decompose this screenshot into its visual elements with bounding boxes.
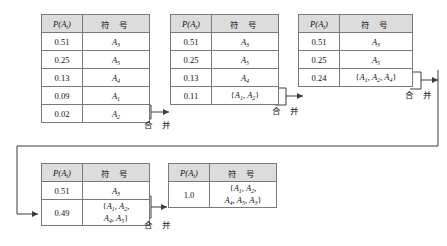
table-3: P(Ai) 符 号 0.51 A3 0.25 A5 0.24 {A1, A2, … — [298, 14, 413, 87]
merge-label-3: 合 并 — [405, 88, 435, 100]
col-header-probability: P(Ai) — [299, 15, 340, 33]
cell-probability: 0.25 — [299, 51, 340, 69]
table-row: 0.24 {A1, A2, A4} — [299, 69, 413, 87]
col-header-symbol: 符 号 — [83, 164, 150, 182]
col-header-probability: P(Ai) — [171, 15, 212, 33]
cell-probability: 0.25 — [171, 51, 212, 69]
table-row: 0.11 {A1, A2} — [171, 87, 279, 105]
cell-symbol-set: {A1, A2, A4} — [340, 69, 413, 87]
cell-symbol: A5 — [212, 51, 279, 69]
table-5-header-row: P(Ai) 符 号 — [169, 164, 277, 182]
table-5: P(Ai) 符 号 1.0 {A1, A2, A4, A5, A3} — [168, 163, 277, 208]
table-row: 0.09 A1 — [42, 87, 150, 105]
cell-symbol-set: {A1, A2, A4, A5} — [83, 200, 150, 226]
cell-symbol: A1 — [83, 87, 150, 105]
table-row: 0.51 A3 — [42, 182, 150, 200]
col-header-symbol: 符 号 — [340, 15, 413, 33]
cell-symbol: A4 — [212, 69, 279, 87]
cell-symbol: A2 — [83, 105, 150, 123]
col-header-probability: P(Ai) — [169, 164, 210, 182]
table-row: 0.25 A5 — [42, 51, 150, 69]
table-2: P(Ai) 符 号 0.51 A3 0.25 A5 0.13 A4 0.11 {… — [170, 14, 279, 105]
cell-symbol-set: {A1, A2} — [212, 87, 279, 105]
table-row: 0.25 A5 — [171, 51, 279, 69]
table-row: 0.51 A3 — [171, 33, 279, 51]
table-3-header-row: P(Ai) 符 号 — [299, 15, 413, 33]
table-4-header-row: P(Ai) 符 号 — [42, 164, 150, 182]
col-header-symbol: 符 号 — [83, 15, 150, 33]
table-row: 0.51 A3 — [299, 33, 413, 51]
table-4: P(Ai) 符 号 0.51 A3 0.49 {A1, A2, A4, A5} — [41, 163, 150, 226]
diagram-canvas: P(Ai) 符 号 0.51 A3 0.25 A5 0.13 A4 0.09 A… — [0, 0, 447, 246]
cell-symbol-set: {A1, A2, A4, A5, A3} — [210, 182, 277, 208]
table-row: 0.51 A3 — [42, 33, 150, 51]
cell-symbol: A4 — [83, 69, 150, 87]
cell-probability: 0.11 — [171, 87, 212, 105]
merge-label-2: 合 并 — [272, 104, 302, 116]
table-row: 0.13 A4 — [171, 69, 279, 87]
cell-probability: 0.25 — [42, 51, 83, 69]
cell-symbol: A3 — [83, 33, 150, 51]
col-header-symbol: 符 号 — [210, 164, 277, 182]
cell-probability: 0.13 — [42, 69, 83, 87]
table-row: 0.13 A4 — [42, 69, 150, 87]
col-header-probability: P(Ai) — [42, 164, 83, 182]
cell-symbol: A3 — [340, 33, 413, 51]
cell-probability: 0.09 — [42, 87, 83, 105]
cell-probability: 0.51 — [171, 33, 212, 51]
cell-probability: 0.02 — [42, 105, 83, 123]
table-row: 0.25 A5 — [299, 51, 413, 69]
table-1-header-row: P(Ai) 符 号 — [42, 15, 150, 33]
col-header-symbol: 符 号 — [212, 15, 279, 33]
cell-probability: 0.51 — [42, 182, 83, 200]
cell-probability: 0.13 — [171, 69, 212, 87]
merge-label-4: 合 并 — [144, 218, 174, 230]
table-row: 0.02 A2 — [42, 105, 150, 123]
table-row: 1.0 {A1, A2, A4, A5, A3} — [169, 182, 277, 208]
cell-symbol: A3 — [83, 182, 150, 200]
table-row: 0.49 {A1, A2, A4, A5} — [42, 200, 150, 226]
cell-probability: 0.51 — [299, 33, 340, 51]
cell-probability: 0.24 — [299, 69, 340, 87]
cell-probability: 0.51 — [42, 33, 83, 51]
merge-label-1: 合 并 — [144, 118, 174, 130]
table-1: P(Ai) 符 号 0.51 A3 0.25 A5 0.13 A4 0.09 A… — [41, 14, 150, 123]
cell-probability: 1.0 — [169, 182, 210, 208]
cell-symbol: A5 — [83, 51, 150, 69]
col-header-probability: P(Ai) — [42, 15, 83, 33]
cell-symbol: A5 — [340, 51, 413, 69]
table-2-header-row: P(Ai) 符 号 — [171, 15, 279, 33]
cell-probability: 0.49 — [42, 200, 83, 226]
cell-symbol: A3 — [212, 33, 279, 51]
